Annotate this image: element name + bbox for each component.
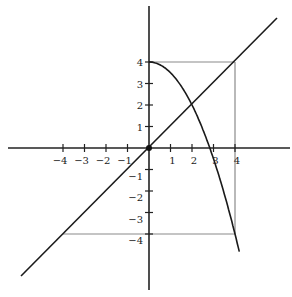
x-tick-label: 4 (234, 155, 240, 166)
x-tick-label: −2 (96, 155, 111, 166)
y-tick-label: −3 (128, 214, 143, 225)
y-tick-label: 1 (137, 122, 143, 133)
y-tick-label: −2 (128, 192, 143, 203)
x-tick-label: 2 (191, 155, 197, 166)
y-tick-label: 2 (137, 100, 143, 111)
x-tick-label: −3 (74, 155, 89, 166)
coordinate-diagram: −4−3−2−11234−4−3−2−11234 (0, 0, 292, 297)
origin-point (146, 145, 152, 151)
y-tick-label: 3 (137, 79, 143, 90)
x-tick-label: −4 (53, 155, 68, 166)
y-tick-label: −1 (128, 171, 143, 182)
x-tick-label: −1 (117, 155, 132, 166)
plot-svg: −4−3−2−11234−4−3−2−11234 (0, 0, 292, 297)
y-tick-label: 4 (137, 57, 143, 68)
x-tick-label: 1 (169, 155, 175, 166)
y-tick-label: −4 (128, 235, 143, 246)
tick-labels: −4−3−2−11234−4−3−2−11234 (53, 57, 241, 246)
